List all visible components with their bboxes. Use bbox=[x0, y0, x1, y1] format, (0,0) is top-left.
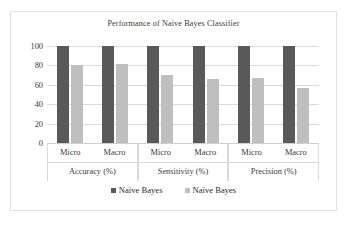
bar[interactable] bbox=[283, 46, 295, 143]
category-group: MicroMacroAccuracy (%) bbox=[47, 143, 138, 181]
y-tick-label: 40 bbox=[35, 100, 43, 109]
bar[interactable] bbox=[238, 46, 250, 143]
legend-item[interactable]: Naïve Bayes bbox=[111, 185, 163, 195]
subcategory-label: Micro bbox=[229, 143, 273, 162]
bar[interactable] bbox=[161, 75, 173, 143]
bar-pair bbox=[228, 46, 273, 143]
legend-label: Naïve Bayes bbox=[119, 185, 163, 195]
category-group: MicroMacroSensitivity (%) bbox=[138, 143, 229, 181]
bar[interactable] bbox=[297, 88, 309, 143]
bar[interactable] bbox=[207, 79, 219, 143]
bar-pair bbox=[92, 46, 137, 143]
y-tick-label: 60 bbox=[35, 80, 43, 89]
legend-swatch-icon bbox=[111, 188, 116, 193]
bar-group bbox=[138, 46, 229, 143]
subcategory-row: MicroMacro bbox=[229, 143, 318, 162]
legend-label: Naïve Bayes bbox=[193, 185, 237, 195]
bar[interactable] bbox=[147, 46, 159, 143]
y-tick-label: 100 bbox=[30, 42, 43, 51]
y-tick-label: 80 bbox=[35, 61, 43, 70]
category-label: Precision (%) bbox=[229, 162, 318, 181]
bar[interactable] bbox=[57, 46, 69, 143]
bar-pair bbox=[47, 46, 92, 143]
bar[interactable] bbox=[102, 46, 114, 143]
bar-group bbox=[228, 46, 319, 143]
bar-pair bbox=[138, 46, 183, 143]
subcategory-label: Macro bbox=[92, 143, 136, 162]
plot-area: 100 80 60 40 20 0 bbox=[47, 46, 319, 143]
y-tick-label: 0 bbox=[39, 139, 43, 148]
bar-pair bbox=[183, 46, 228, 143]
subcategory-label: Macro bbox=[274, 143, 318, 162]
subcategory-row: MicroMacro bbox=[139, 143, 228, 162]
chart-container: Performance of Naive Bayes Classifier 10… bbox=[10, 11, 337, 211]
bar[interactable] bbox=[116, 64, 128, 143]
chart-legend: Naïve BayesNaïve Bayes bbox=[11, 185, 336, 195]
category-label: Sensitivity (%) bbox=[139, 162, 228, 181]
category-label: Accuracy (%) bbox=[48, 162, 137, 181]
chart-title: Performance of Naive Bayes Classifier bbox=[11, 19, 336, 28]
bar-series-layer bbox=[47, 46, 319, 143]
bar-pair bbox=[274, 46, 319, 143]
legend-swatch-icon bbox=[185, 188, 190, 193]
bar[interactable] bbox=[71, 65, 83, 143]
y-axis: 100 80 60 40 20 0 bbox=[13, 46, 43, 143]
category-group: MicroMacroPrecision (%) bbox=[228, 143, 319, 181]
subcategory-label: Macro bbox=[183, 143, 227, 162]
subcategory-row: MicroMacro bbox=[48, 143, 137, 162]
subcategory-label: Micro bbox=[139, 143, 183, 162]
bar-group bbox=[47, 46, 138, 143]
subcategory-label: Micro bbox=[48, 143, 92, 162]
category-axis: MicroMacroAccuracy (%)MicroMacroSensitiv… bbox=[47, 143, 319, 181]
bar[interactable] bbox=[252, 78, 264, 143]
legend-item[interactable]: Naïve Bayes bbox=[185, 185, 237, 195]
bar[interactable] bbox=[193, 46, 205, 143]
y-tick-label: 20 bbox=[35, 119, 43, 128]
